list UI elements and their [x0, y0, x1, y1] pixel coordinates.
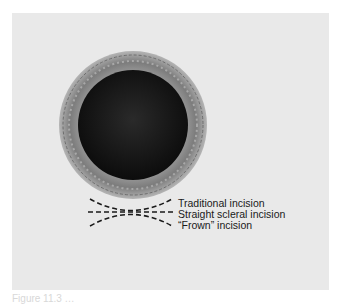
frown-incision-label: “Frown” incision [178, 220, 252, 231]
traditional-incision-line [90, 199, 172, 211]
figure-caption: Figure 11.3 … [12, 293, 75, 304]
incision-lines [88, 199, 174, 226]
pupil [78, 70, 188, 180]
frown-incision-line [90, 215, 172, 227]
